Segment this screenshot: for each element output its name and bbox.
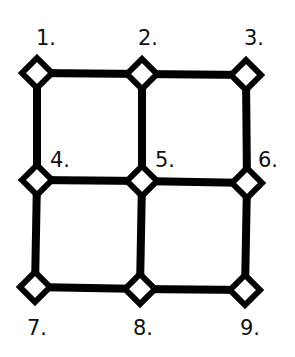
node-label-2: 2. [138, 26, 158, 50]
grid-diagram: 1.2.3.4.5.6.7.8.9. [0, 0, 295, 357]
diamond-node-icon [232, 168, 262, 198]
node-label-5: 5. [155, 148, 175, 172]
node-label-6: 6. [258, 148, 278, 172]
diamond-node-icon [127, 166, 157, 196]
diamond-node-icon [230, 275, 260, 305]
node-label-9: 9. [240, 316, 260, 340]
node-label-7: 7. [27, 316, 47, 340]
diamond-node-icon [22, 165, 52, 195]
diamond-node-icon [125, 274, 155, 304]
diamond-node-icon [231, 60, 261, 90]
node-label-1: 1. [36, 26, 56, 50]
node-label-8: 8. [133, 316, 153, 340]
node-label-4: 4. [50, 148, 70, 172]
diamond-node-icon [22, 58, 52, 88]
node-label-3: 3. [244, 26, 264, 50]
diamond-node-icon [127, 59, 157, 89]
diamond-node-icon [20, 272, 50, 302]
